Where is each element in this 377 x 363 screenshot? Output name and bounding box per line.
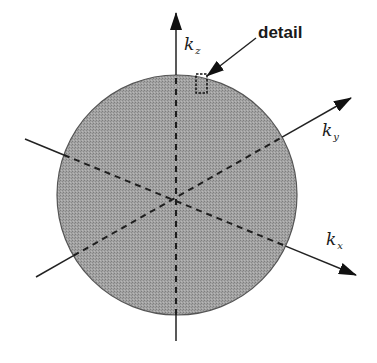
axis-label-ky: ky <box>322 120 339 142</box>
axis-ky-outer-line <box>282 98 351 137</box>
axis-label-kz: kz <box>184 34 201 56</box>
axis-kx-outer-line <box>25 139 64 155</box>
detail-arrow <box>207 38 256 76</box>
axis-ky-outer-line <box>36 256 73 277</box>
axis-kx-outer-line <box>286 246 356 275</box>
detail-label: detail <box>258 23 302 42</box>
k-space-sphere-diagram: kzkykx detail <box>0 0 377 363</box>
axis-label-kx: kx <box>326 229 343 251</box>
